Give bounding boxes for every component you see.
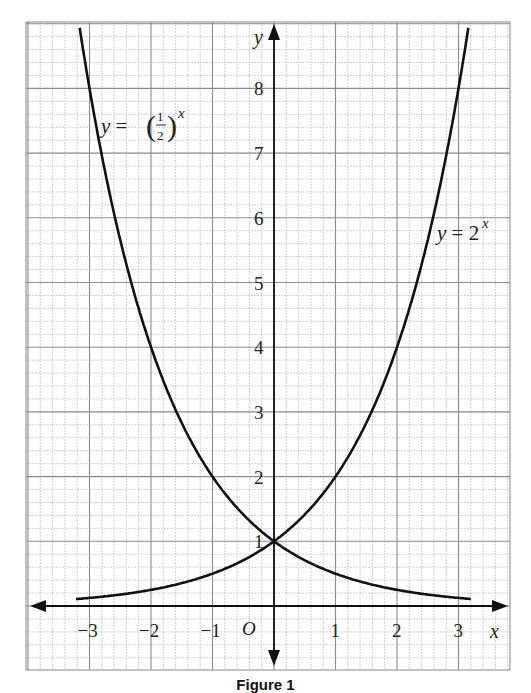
minor-grid	[26, 22, 510, 670]
y-tick-label: 4	[254, 337, 264, 358]
grid-border	[26, 22, 510, 670]
y-tick-label: 1	[254, 531, 264, 552]
y-axis-label: y	[252, 26, 263, 49]
tick-labels: −3−2−112312345678	[78, 78, 464, 641]
svg-text:2: 2	[157, 128, 164, 143]
svg-text:): )	[167, 109, 177, 143]
y-tick-label: 3	[254, 402, 264, 423]
x-axis-left-arrow-icon	[30, 600, 46, 612]
svg-text:x: x	[177, 105, 185, 121]
svg-text:(: (	[146, 109, 156, 143]
x-tick-label: −1	[201, 620, 221, 641]
x-tick-label: −2	[139, 620, 159, 641]
figure-caption: Figure 1	[0, 676, 531, 693]
svg-text:y = 2: y = 2	[435, 221, 479, 245]
major-grid	[26, 22, 510, 670]
x-tick-label: −3	[78, 620, 98, 641]
x-axis-label: x	[489, 620, 499, 642]
x-axis-right-arrow-icon	[492, 600, 508, 612]
y-axis-up-arrow-icon	[268, 24, 280, 40]
origin-label: O	[242, 618, 256, 639]
legend-2-pow-x: y = 2 x	[435, 215, 489, 245]
legend-half-pow-x: y = ( 1 2 ) x	[99, 105, 185, 143]
x-tick-label: 2	[392, 620, 402, 641]
svg-text:y =: y =	[99, 114, 127, 138]
svg-text:1: 1	[157, 109, 164, 124]
exponential-graph: −3−2−112312345678 y x O y = ( 1 2 ) x y …	[0, 0, 531, 676]
y-tick-label: 2	[254, 467, 264, 488]
x-tick-label: 3	[454, 620, 464, 641]
x-tick-label: 1	[331, 620, 341, 641]
y-tick-label: 7	[254, 143, 264, 164]
y-tick-label: 6	[254, 208, 264, 229]
y-tick-label: 5	[254, 273, 264, 294]
svg-text:x: x	[481, 215, 489, 231]
y-tick-label: 8	[254, 78, 264, 99]
